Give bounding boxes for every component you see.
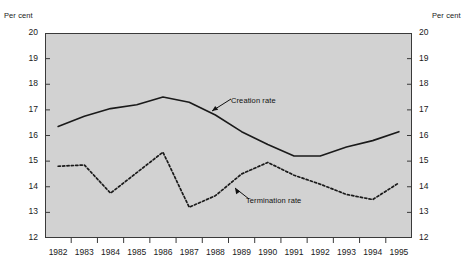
y-tick-label-right: 15	[419, 156, 435, 165]
y-tick-label-right: 20	[419, 28, 435, 37]
y-tick-label-left: 19	[22, 54, 38, 63]
y-tick-label-right: 13	[419, 207, 435, 216]
series-creation-rate	[58, 97, 399, 156]
y-tick-label-right: 16	[419, 131, 435, 140]
chart-figure: Per cent Per cent Creation rate Terminat…	[0, 0, 468, 269]
x-tick-label: 1995	[384, 248, 414, 257]
y-tick-label-left: 16	[22, 131, 38, 140]
y-tick-label-right: 19	[419, 54, 435, 63]
y-tick-label-left: 18	[22, 79, 38, 88]
y-axis-title-left: Per cent	[4, 11, 33, 20]
y-tick-label-right: 12	[419, 233, 435, 242]
y-tick-label-left: 17	[22, 105, 38, 114]
y-tick-label-left: 14	[22, 182, 38, 191]
y-tick-label-right: 17	[419, 105, 435, 114]
annotation-creation-rate: Creation rate	[231, 96, 276, 105]
annotation-termination-rate: Termination rate	[246, 196, 301, 205]
y-axis-title-right: Per cent	[432, 11, 461, 20]
y-tick-label-left: 12	[22, 233, 38, 242]
y-tick-label-left: 15	[22, 156, 38, 165]
y-tick-label-left: 13	[22, 207, 38, 216]
y-tick-label-right: 18	[419, 79, 435, 88]
series-termination-rate	[58, 152, 399, 207]
plot-lines	[45, 33, 412, 238]
y-tick-label-left: 20	[22, 28, 38, 37]
y-tick-label-right: 14	[419, 182, 435, 191]
